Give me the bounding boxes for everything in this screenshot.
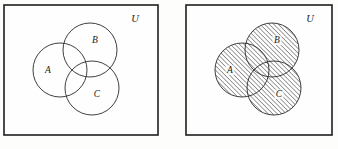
label-set-c: C [94,89,101,99]
shaded-label-b-group: B [273,35,282,45]
label-set-b: B [92,35,98,45]
unshaded-venn-panel: A B C U [4,5,158,135]
shaded-label-a-group: A [226,65,235,75]
shaded-label-set-a: A [226,65,233,75]
shaded-label-set-c: C [276,89,283,99]
figure-canvas: A B C U A B [0,0,338,149]
shaded-label-set-b: B [274,35,280,45]
shaded-venn-panel: A B C U [186,5,332,135]
label-set-a: A [44,65,51,75]
shaded-label-c-group: C [275,89,284,99]
venn-diagram-figure: A B C U A B [0,0,338,149]
